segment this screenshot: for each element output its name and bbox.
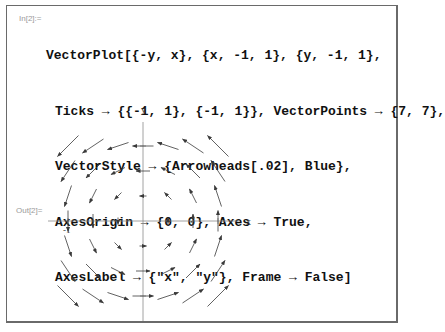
vector-arrow	[208, 286, 229, 307]
vector-arrow	[65, 236, 72, 257]
vector-arrow	[183, 139, 204, 153]
x-tick-label: -1	[63, 225, 71, 235]
vector-arrow	[111, 268, 125, 275]
vector-arrow	[58, 136, 79, 157]
vector-arrow	[111, 168, 125, 175]
vector-arrow	[190, 239, 197, 253]
vector-arrow	[161, 168, 175, 175]
vector-arrow	[108, 293, 129, 300]
vector-arrow	[186, 164, 200, 178]
vector-arrow	[115, 193, 122, 200]
vector-arrow	[115, 243, 122, 250]
vector-arrow	[158, 293, 179, 300]
vector-arrow	[108, 143, 129, 150]
vector-arrow	[165, 193, 172, 200]
axes	[48, 122, 240, 321]
vector-arrow	[65, 186, 72, 207]
vector-arrow	[90, 239, 97, 253]
vector-arrow	[61, 261, 75, 282]
vector-arrow	[190, 189, 197, 203]
vector-arrow	[158, 143, 179, 150]
vector-arrow	[86, 264, 100, 278]
vector-arrow	[208, 136, 229, 157]
vector-arrow	[90, 189, 97, 203]
vector-arrow	[183, 289, 204, 303]
vector-arrow	[211, 161, 225, 182]
vector-arrow	[161, 268, 175, 275]
vector-arrow	[61, 161, 75, 182]
vector-arrow	[86, 164, 100, 178]
vector-arrow	[215, 186, 222, 207]
vector-arrow	[165, 243, 172, 250]
vector-arrow	[186, 264, 200, 278]
vector-arrow	[215, 236, 222, 257]
x-axis-label: x	[246, 216, 251, 227]
vector-arrow	[211, 261, 225, 282]
y-axis-label: y	[141, 104, 146, 115]
vector-arrow	[83, 139, 104, 153]
vector-arrow	[58, 286, 79, 307]
vector-arrow	[83, 289, 104, 303]
